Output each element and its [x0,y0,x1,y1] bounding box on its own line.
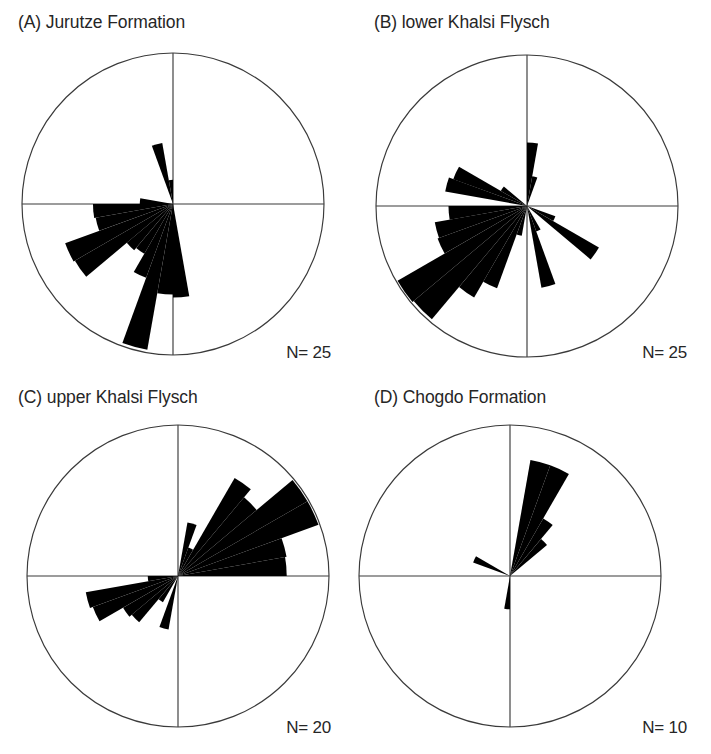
rose-petal [473,556,510,576]
rose-plot-c [27,425,329,727]
panel-b-sample-count: N= 25 [642,343,687,363]
rose-chart-b [356,0,711,377]
rose-petal [140,198,173,204]
panel-c-upper-khalsi-flysch: (C) upper Khalsi Flysch N= 20 [0,375,355,752]
panel-c-title: (C) upper Khalsi Flysch [18,387,198,408]
rose-chart-c [0,375,355,752]
panel-d-chogdo-formation: (D) Chogdo Formation N= 10 [356,375,711,752]
panel-d-title: (D) Chogdo Formation [374,387,546,408]
rose-petal [152,143,173,204]
rose-chart-d [356,375,711,752]
panel-b-title: (B) lower Khalsi Flysch [374,12,550,33]
panel-a-sample-count: N= 25 [286,343,331,363]
rose-petal [445,178,527,206]
rose-chart-a [0,0,355,377]
rose-petal [504,576,510,609]
panel-d-sample-count: N= 10 [642,718,687,738]
rose-plot-a [22,53,324,355]
rose-plot-d [359,425,661,727]
rose-petal [527,143,538,206]
panel-a-jurutze-formation: (A) Jurutze Formation N= 25 [0,0,355,377]
rose-petal [173,204,189,298]
panel-b-lower-khalsi-flysch: (B) lower Khalsi Flysch N= 25 [356,0,711,377]
panel-a-title: (A) Jurutze Formation [18,12,185,33]
panel-c-sample-count: N= 20 [286,718,331,738]
rose-plot-b [376,55,678,357]
rose-diagram-figure: (A) Jurutze Formation N= 25 (B) lower Kh… [0,0,711,754]
